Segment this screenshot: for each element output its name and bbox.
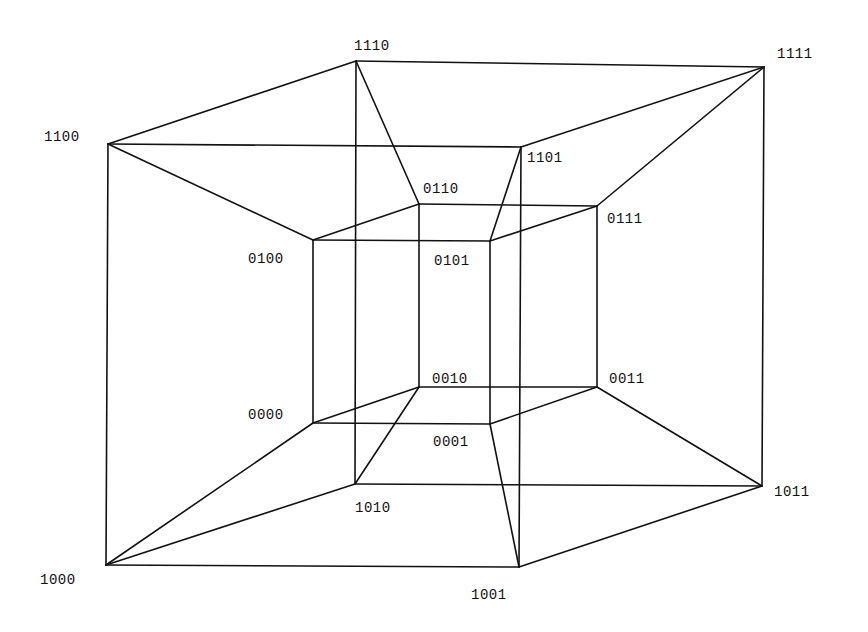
edge-1100-1110	[108, 61, 356, 144]
edge-0000-0010	[313, 387, 419, 423]
edge-0101-1101	[490, 147, 521, 241]
vertex-label-1001: 1001	[471, 587, 507, 603]
edge-1011-1111	[762, 67, 764, 486]
edge-0001-1001	[490, 424, 519, 567]
edges-group	[106, 61, 764, 567]
edge-1000-1100	[106, 144, 108, 565]
tesseract-diagram: 0000000100100011010001010110011110001001…	[0, 0, 868, 632]
edge-1010-1011	[355, 484, 762, 486]
edge-1101-1111	[521, 67, 764, 147]
vertex-label-1000: 1000	[40, 572, 76, 588]
vertex-label-0101: 0101	[434, 253, 470, 269]
vertex-label-1101: 1101	[527, 150, 563, 166]
edge-0000-1000	[106, 423, 313, 565]
edge-0111-1111	[597, 67, 764, 206]
edge-0100-1100	[108, 144, 313, 240]
edge-1000-1010	[106, 484, 355, 565]
edge-1110-1111	[356, 61, 764, 67]
edge-0101-0111	[490, 206, 597, 241]
vertex-label-0100: 0100	[248, 251, 284, 267]
vertex-label-0111: 0111	[607, 211, 643, 227]
edge-0011-1011	[597, 387, 762, 486]
edge-0110-1110	[356, 61, 419, 204]
edge-0001-0011	[490, 387, 597, 424]
vertex-label-0010: 0010	[432, 371, 468, 387]
edge-0100-0110	[313, 204, 419, 240]
edge-1001-1011	[519, 486, 762, 567]
vertex-label-1010: 1010	[355, 500, 391, 516]
edge-0110-0111	[419, 204, 597, 206]
edge-1000-1001	[106, 565, 519, 567]
edge-0010-1010	[355, 387, 419, 484]
edge-1001-1101	[519, 147, 521, 567]
edge-1100-1101	[108, 144, 521, 147]
vertex-label-0001: 0001	[433, 434, 469, 450]
vertex-label-0110: 0110	[423, 181, 459, 197]
edge-0100-0101	[313, 240, 490, 241]
vertex-label-1111: 1111	[777, 46, 813, 62]
vertex-label-1110: 1110	[354, 38, 390, 54]
edge-0000-0001	[313, 423, 490, 424]
vertex-label-0011: 0011	[609, 371, 645, 387]
vertex-label-1011: 1011	[774, 484, 810, 500]
vertex-label-0000: 0000	[248, 407, 284, 423]
edge-1010-1110	[355, 61, 356, 484]
vertex-label-1100: 1100	[44, 129, 80, 145]
